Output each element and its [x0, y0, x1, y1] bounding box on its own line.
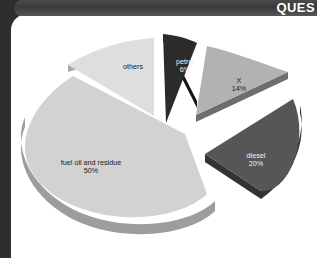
- slice-top-petrol: [163, 34, 197, 123]
- header-title: QUES: [277, 0, 315, 16]
- pie-chart: others petrol 6% X 14% diesel 20% fuel o…: [11, 16, 317, 258]
- slice-top-diesel: [205, 99, 299, 191]
- screenshot-root: QUES: [0, 0, 317, 258]
- page-frame-corner-cutout: [11, 14, 55, 58]
- header-bar: [14, 0, 317, 16]
- pie-chart-svg: [11, 16, 317, 258]
